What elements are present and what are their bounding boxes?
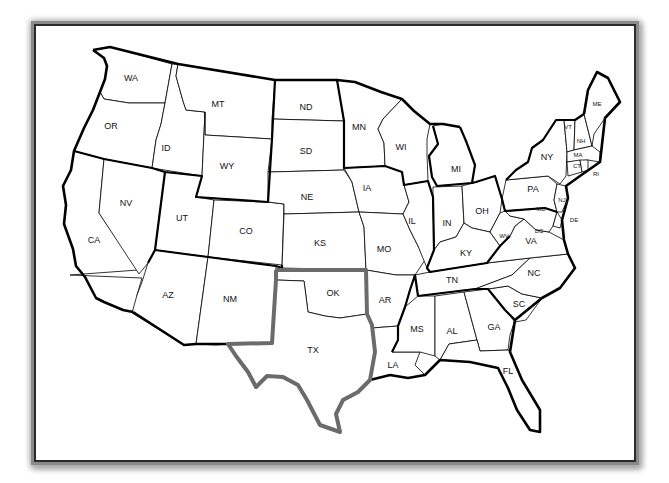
label-ri: RI bbox=[593, 171, 599, 177]
label-tn: TN bbox=[446, 275, 458, 285]
label-nd: ND bbox=[300, 102, 313, 112]
label-nm: NM bbox=[223, 294, 237, 304]
label-la: LA bbox=[387, 360, 398, 370]
label-ca: CA bbox=[88, 235, 101, 245]
label-nv: NV bbox=[120, 198, 133, 208]
label-sc: SC bbox=[513, 299, 526, 309]
label-al: AL bbox=[446, 326, 457, 336]
label-ks: KS bbox=[314, 238, 326, 248]
label-ga: GA bbox=[487, 322, 500, 332]
label-nj: NJ bbox=[558, 197, 565, 203]
label-vt: VT bbox=[564, 124, 572, 130]
label-ia: IA bbox=[363, 183, 372, 193]
label-mt: MT bbox=[212, 99, 225, 109]
label-az: AZ bbox=[162, 290, 174, 300]
label-md: MD bbox=[536, 206, 546, 212]
label-ne: NE bbox=[301, 192, 314, 202]
label-oh: OH bbox=[475, 206, 489, 216]
label-wa: WA bbox=[124, 73, 138, 83]
label-va: VA bbox=[525, 236, 536, 246]
label-ms: MS bbox=[410, 324, 424, 334]
label-ok: OK bbox=[326, 288, 339, 298]
label-or: OR bbox=[104, 121, 118, 131]
label-dc: DC bbox=[535, 228, 544, 234]
state-ny[interactable] bbox=[506, 120, 567, 184]
label-id: ID bbox=[162, 143, 172, 153]
label-nc: NC bbox=[528, 268, 541, 278]
label-ny: NY bbox=[541, 152, 554, 162]
label-mn: MN bbox=[352, 122, 366, 132]
label-il: IL bbox=[408, 216, 416, 226]
label-ut: UT bbox=[176, 213, 188, 223]
label-de: DE bbox=[570, 217, 578, 223]
state-nd[interactable] bbox=[272, 80, 344, 121]
label-me: ME bbox=[593, 101, 602, 107]
label-ky: KY bbox=[460, 248, 472, 258]
label-fl: FL bbox=[503, 366, 514, 376]
state-pa[interactable] bbox=[502, 176, 557, 212]
label-wv: WV bbox=[499, 233, 509, 239]
label-ct: CT bbox=[573, 163, 581, 169]
label-mi: MI bbox=[451, 164, 461, 174]
label-co: CO bbox=[239, 226, 253, 236]
label-nh: NH bbox=[577, 138, 586, 144]
label-pa: PA bbox=[527, 184, 538, 194]
label-ar: AR bbox=[379, 295, 392, 305]
label-tx: TX bbox=[307, 345, 319, 355]
label-wi: WI bbox=[396, 142, 407, 152]
label-mo: MO bbox=[377, 244, 392, 254]
label-sd: SD bbox=[300, 146, 313, 156]
us-map: WA OR ID MT WY ND SD NE KS MN IA MO WI I… bbox=[0, 0, 669, 483]
label-in: IN bbox=[443, 218, 452, 228]
label-wy: WY bbox=[220, 161, 235, 171]
label-ma: MA bbox=[574, 152, 583, 158]
